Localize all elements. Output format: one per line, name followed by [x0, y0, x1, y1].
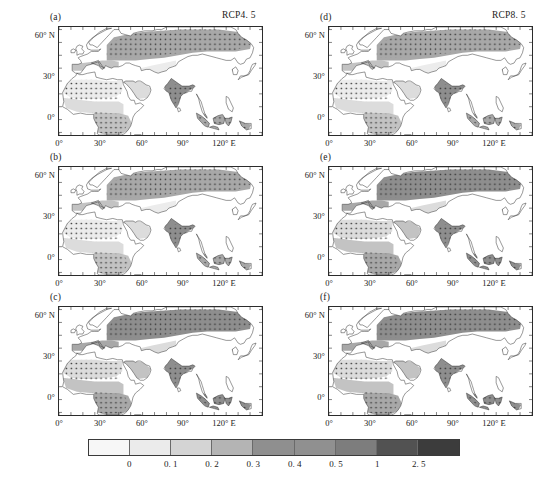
xlabel-d-120e: 120° E	[473, 138, 515, 148]
map-panel-e[interactable]	[328, 166, 533, 276]
xlabel-b-120e: 120° E	[203, 278, 245, 288]
map-graphic	[329, 307, 532, 415]
map-graphic	[329, 167, 532, 275]
xlabel-a-90: 90°	[166, 138, 200, 148]
xlabel-c-0: 0°	[42, 418, 76, 428]
xlabel-d-90: 90°	[436, 138, 470, 148]
ylabel-a-30: 30°	[14, 71, 55, 81]
xlabel-f-0: 0°	[312, 418, 346, 428]
colorbar-segment-7	[377, 440, 418, 455]
colorbar-tick-2.5: 2. 5	[399, 459, 439, 469]
colorbar-segment-3	[212, 440, 253, 455]
map-panel-b[interactable]	[58, 166, 263, 276]
colorbar-tick-0.2: 0. 2	[192, 459, 232, 469]
colorbar-segment-6	[336, 440, 377, 455]
colorbar-segment-1	[130, 440, 171, 455]
map-graphic	[59, 167, 262, 275]
ylabel-d-60n: 60° N	[284, 30, 325, 40]
xlabel-c-30: 30°	[83, 418, 117, 428]
xlabel-e-30: 30°	[353, 278, 387, 288]
xlabel-b-90: 90°	[166, 278, 200, 288]
panel-label-f: (f)	[320, 292, 330, 302]
xlabel-f-120e: 120° E	[473, 418, 515, 428]
xlabel-a-30: 30°	[83, 138, 117, 148]
colorbar-segment-4	[253, 440, 294, 455]
ylabel-d-0: 0°	[284, 112, 325, 122]
xlabel-e-90: 90°	[436, 278, 470, 288]
xlabel-b-30: 30°	[83, 278, 117, 288]
colorbar-tick-0: 0	[109, 459, 149, 469]
colorbar-tick-0.4: 0. 4	[275, 459, 315, 469]
ylabel-e-30: 30°	[284, 211, 325, 221]
map-graphic	[329, 27, 532, 135]
ylabel-e-0: 0°	[284, 252, 325, 262]
scenario-label-rcp45: RCP4. 5	[222, 10, 256, 20]
xlabel-c-120e: 120° E	[203, 418, 245, 428]
ylabel-c-60n: 60° N	[14, 310, 55, 320]
xlabel-f-90: 90°	[436, 418, 470, 428]
xlabel-e-120e: 120° E	[473, 278, 515, 288]
ylabel-b-30: 30°	[14, 211, 55, 221]
panel-label-a: (a)	[50, 12, 61, 22]
ylabel-d-30: 30°	[284, 71, 325, 81]
panel-label-e: (e)	[320, 152, 331, 162]
ylabel-a-60n: 60° N	[14, 30, 55, 40]
map-panel-d[interactable]	[328, 26, 533, 136]
colorbar-segment-5	[295, 440, 336, 455]
colorbar-tick-0.3: 0. 3	[233, 459, 273, 469]
colorbar-tick-0.1: 0. 1	[151, 459, 191, 469]
ylabel-f-30: 30°	[284, 351, 325, 361]
ylabel-e-60n: 60° N	[284, 170, 325, 180]
ylabel-b-60n: 60° N	[14, 170, 55, 180]
xlabel-e-0: 0°	[312, 278, 346, 288]
map-panel-c[interactable]	[58, 306, 263, 416]
xlabel-e-60: 60°	[395, 278, 429, 288]
colorbar-segment-8	[418, 440, 459, 455]
colorbar-tick-1: 1	[357, 459, 397, 469]
xlabel-a-0: 0°	[42, 138, 76, 148]
map-panel-f[interactable]	[328, 306, 533, 416]
map-graphic	[59, 307, 262, 415]
colorbar-tick-0.5: 0. 5	[316, 459, 356, 469]
panel-label-d: (d)	[320, 12, 332, 22]
figure-canvas: RCP4. 5 RCP8. 5 (a) 60° N 30° 0° 0° 30° …	[0, 0, 548, 491]
xlabel-b-0: 0°	[42, 278, 76, 288]
ylabel-c-30: 30°	[14, 351, 55, 361]
colorbar-segment-2	[171, 440, 212, 455]
panel-label-b: (b)	[50, 152, 62, 162]
colorbar[interactable]	[88, 439, 460, 456]
map-panel-a[interactable]	[58, 26, 263, 136]
panel-label-c: (c)	[50, 292, 61, 302]
xlabel-a-60: 60°	[125, 138, 159, 148]
ylabel-f-0: 0°	[284, 392, 325, 402]
xlabel-b-60: 60°	[125, 278, 159, 288]
xlabel-c-60: 60°	[125, 418, 159, 428]
xlabel-a-120e: 120° E	[203, 138, 245, 148]
colorbar-segment-0	[89, 440, 130, 455]
ylabel-a-0: 0°	[14, 112, 55, 122]
xlabel-f-30: 30°	[353, 418, 387, 428]
xlabel-d-30: 30°	[353, 138, 387, 148]
xlabel-f-60: 60°	[395, 418, 429, 428]
ylabel-f-60n: 60° N	[284, 310, 325, 320]
xlabel-c-90: 90°	[166, 418, 200, 428]
ylabel-c-0: 0°	[14, 392, 55, 402]
xlabel-d-0: 0°	[312, 138, 346, 148]
map-graphic	[59, 27, 262, 135]
scenario-label-rcp85: RCP8. 5	[492, 10, 526, 20]
xlabel-d-60: 60°	[395, 138, 429, 148]
ylabel-b-0: 0°	[14, 252, 55, 262]
